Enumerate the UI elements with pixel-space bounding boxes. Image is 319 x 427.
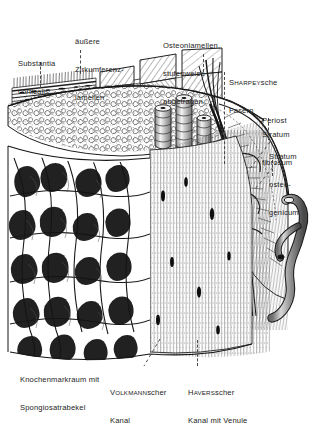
- label-havers-line1: HAVERSscher: [188, 388, 247, 397]
- label-osteonlamellen-line1: Osteonlamellen,: [163, 41, 220, 50]
- label-osteonlamellen-line3: abgetragen: [163, 97, 220, 106]
- label-stratum-osteogenicum-line2: osteo-: [269, 180, 299, 189]
- label-zirkumferenz-line1: äußere: [75, 37, 124, 46]
- label-knochenmarkraum: Knochenmarkraum mit Spongiosatrabekel: [20, 356, 99, 422]
- label-zirkumferenz-line3: lamellen: [75, 93, 124, 102]
- havers-eponym-smallcaps: AVERS: [194, 389, 215, 396]
- label-zirkumferenz-line2: Zirkumferenz-: [75, 65, 124, 74]
- label-sharpeysche-line1: SHARPEYsche: [229, 78, 277, 87]
- label-haversscher-kanal: HAVERSscher Kanal mit Venule: [188, 369, 247, 427]
- sharpey-eponym-smallcaps: HARPEY: [234, 79, 261, 86]
- label-stratum-osteogenicum: Stratum osteo- genicum: [269, 133, 299, 227]
- label-aeussere-zirkumferenzlamellen: äußere Zirkumferenz- lamellen: [75, 18, 124, 112]
- volkmann-eponym-tail: scher: [147, 388, 166, 397]
- label-osteonlamellen-line2: stufenweise: [163, 69, 220, 78]
- label-osteonlamellen: Osteonlamellen, stufenweise abgetragen: [163, 22, 220, 116]
- label-havers-line2: Kanal mit Venule: [188, 416, 247, 425]
- label-stratum-osteogenicum-line3: genicum: [269, 208, 299, 217]
- label-volkmannscher-kanal: VOLKMANNscher Kanal: [110, 369, 166, 427]
- sharpey-eponym-tail: sche: [261, 78, 278, 87]
- label-substantia-corticalis-line1: Substantia: [18, 59, 55, 68]
- leader-volkmannscher-kanal: [140, 338, 164, 366]
- label-stratum-osteogenicum-line1: Stratum: [269, 152, 299, 161]
- label-knochenmarkraum-line2: Spongiosatrabekel: [20, 403, 99, 412]
- label-volkmann-line1: VOLKMANNscher: [110, 388, 166, 397]
- label-knochenmarkraum-line1: Knochenmarkraum mit: [20, 375, 99, 384]
- havers-eponym-tail: scher: [215, 388, 234, 397]
- volkmann-eponym-smallcaps: OLKMANN: [115, 389, 147, 396]
- label-substantia-corticalis: Substantia corticalis: [18, 40, 55, 106]
- leader-sharpeysche-fasern: [224, 72, 225, 164]
- leader-haversscher-kanal: [197, 340, 198, 366]
- label-substantia-corticalis-line2: corticalis: [18, 87, 55, 96]
- label-volkmann-line2: Kanal: [110, 416, 166, 425]
